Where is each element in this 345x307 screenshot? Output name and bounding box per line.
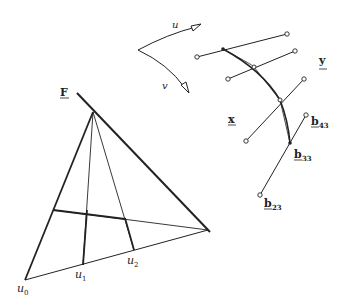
label-u0-sub: 0 bbox=[24, 289, 28, 297]
label-b33-sub: 33 bbox=[302, 154, 312, 163]
control-point-b43 bbox=[304, 113, 308, 117]
control-structure bbox=[195, 32, 308, 197]
u-direction-curve bbox=[138, 27, 196, 50]
base-line bbox=[25, 230, 208, 280]
spine-curve bbox=[223, 49, 290, 143]
label-F: F bbox=[60, 86, 68, 99]
bar-3 bbox=[246, 79, 304, 141]
segment-u2 bbox=[125, 218, 134, 250]
spine-node bbox=[252, 65, 256, 69]
control-point bbox=[244, 139, 248, 143]
label-b43-sub: 43 bbox=[319, 121, 329, 130]
uv-frame bbox=[138, 24, 201, 93]
label-b33: b bbox=[294, 148, 302, 161]
label-x: x bbox=[228, 113, 235, 126]
segment-u1 bbox=[83, 210, 87, 265]
perspective-triangle bbox=[25, 93, 210, 280]
control-point bbox=[285, 32, 289, 36]
label-v-direction: v bbox=[162, 80, 168, 91]
labels: F u 0 u 1 u 2 u v x y b 43 b 33 b 23 bbox=[17, 19, 329, 297]
control-point bbox=[293, 49, 297, 53]
control-point bbox=[226, 77, 230, 81]
label-u2-sub: 2 bbox=[134, 261, 138, 269]
cross-line-bold bbox=[53, 210, 125, 219]
control-point bbox=[195, 55, 199, 59]
spine-curve-inner bbox=[223, 49, 290, 143]
label-b43: b bbox=[311, 115, 319, 128]
spine-node bbox=[278, 98, 282, 102]
control-point bbox=[302, 77, 306, 81]
label-y: y bbox=[318, 54, 326, 67]
spine-node bbox=[221, 47, 225, 51]
bar-1 bbox=[197, 34, 287, 57]
line-F bbox=[77, 93, 210, 232]
control-point-b23 bbox=[258, 193, 262, 197]
diagram-canvas: F u 0 u 1 u 2 u v x y b 43 b 33 b 23 bbox=[0, 0, 345, 307]
bar-2 bbox=[228, 51, 295, 79]
label-b23-sub: 23 bbox=[272, 203, 282, 212]
label-u1-sub: 1 bbox=[82, 275, 86, 283]
label-b23: b bbox=[264, 197, 272, 210]
label-u-direction: u bbox=[172, 19, 178, 30]
spine-node-b33 bbox=[288, 141, 292, 145]
edge-u0-apex bbox=[25, 112, 93, 280]
u-arrow-icon bbox=[191, 24, 201, 31]
